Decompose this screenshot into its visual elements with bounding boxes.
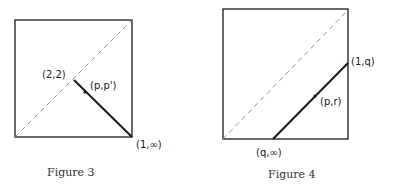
label-q-inf: (q,∞) (256, 147, 282, 158)
label-1-inf: (1,∞) (136, 139, 162, 150)
figures-canvas: (2,2) (p,p') (1,∞) Figure 3 (1,q) (p,r) … (0, 0, 395, 189)
figure-4-diagonal (223, 10, 348, 139)
figure-4: (1,q) (p,r) (q,∞) Figure 4 (223, 9, 375, 181)
figure-3-caption: Figure 3 (47, 166, 95, 179)
figure-3: (2,2) (p,p') (1,∞) Figure 3 (15, 20, 162, 179)
label-1-q: (1,q) (351, 56, 375, 67)
label-p-r: (p,r) (320, 96, 342, 107)
label-2-2: (2,2) (42, 69, 66, 80)
figure-3-point (83, 90, 86, 93)
label-p-pprime: (p,p') (90, 80, 117, 91)
figure-4-point (313, 94, 316, 97)
figure-4-caption: Figure 4 (268, 168, 316, 181)
